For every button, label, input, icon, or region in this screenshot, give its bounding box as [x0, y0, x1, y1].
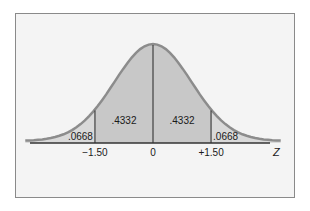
region-right-center — [153, 44, 211, 143]
region-label-right-center: .4332 — [170, 115, 195, 126]
region-label-left-center: .4332 — [111, 115, 136, 126]
region-label-right-tail: .0668 — [213, 131, 238, 142]
normal-curve-chart: −1.500+1.50.0668.4332.4332.0668 Z — [0, 0, 310, 211]
tick-label: +1.50 — [198, 147, 224, 158]
tick-label: 0 — [150, 147, 156, 158]
x-axis-label: Z — [272, 146, 281, 158]
region-label-left-tail: .0668 — [68, 131, 93, 142]
region-left-center — [95, 44, 153, 143]
tick-label: −1.50 — [82, 147, 108, 158]
